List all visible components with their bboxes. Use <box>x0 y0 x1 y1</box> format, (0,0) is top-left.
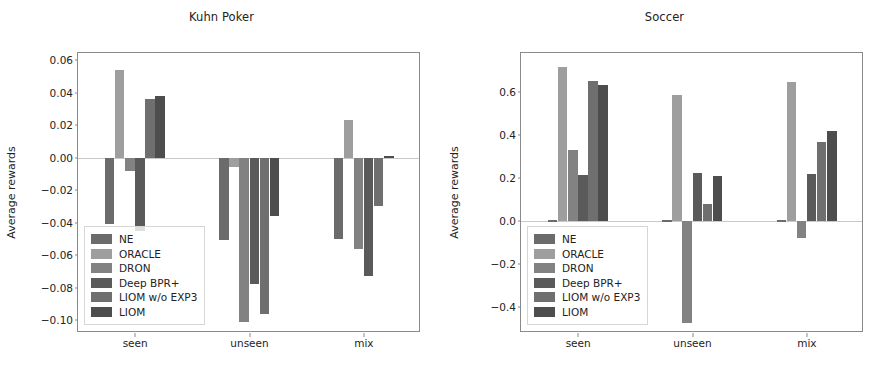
plot-area-soccer: 0.60.40.20.0−0.2−0.4seenunseenmixNEORACL… <box>520 52 863 332</box>
legend-item-label: ORACLE <box>562 249 604 260</box>
bar-kuhn_poker-seen-dron <box>125 158 134 171</box>
y-axis-tick-label: −0.10 <box>41 315 78 326</box>
bar-soccer-seen-oracle <box>558 67 567 221</box>
y-axis-tick-mark <box>75 125 79 126</box>
bar-soccer-mix-liom <box>827 131 836 221</box>
y-axis-tick-mark <box>75 190 79 191</box>
y-axis-tick-mark <box>518 91 522 92</box>
legend-item-label: NE <box>562 234 577 245</box>
legend-item-liom-w-o-exp3[interactable]: LIOM w/o EXP3 <box>91 290 197 305</box>
legend-item-deep-bpr-[interactable]: Deep BPR+ <box>91 276 197 291</box>
y-axis-tick-label: −0.06 <box>41 250 78 261</box>
legend-item-oracle[interactable]: ORACLE <box>534 247 640 262</box>
y-axis-tick-mark <box>75 287 79 288</box>
bar-kuhn_poker-unseen-liom-w-o-exp3 <box>260 158 269 314</box>
bar-soccer-mix-deep-bpr- <box>807 174 816 221</box>
x-axis-tick-label-unseen: unseen <box>230 331 268 349</box>
chart-title-soccer: Soccer <box>443 10 886 24</box>
legend-swatch-icon <box>91 234 112 244</box>
legend-item-label: LIOM w/o EXP3 <box>119 292 197 303</box>
legend-swatch-icon <box>534 278 555 288</box>
bar-kuhn_poker-unseen-oracle <box>229 158 238 168</box>
legend-swatch-icon <box>91 249 112 259</box>
bar-kuhn_poker-unseen-liom <box>270 158 279 216</box>
bar-kuhn_poker-seen-oracle <box>115 70 124 158</box>
y-axis-tick-mark <box>75 60 79 61</box>
legend-item-label: ORACLE <box>119 249 161 260</box>
legend-item-dron[interactable]: DRON <box>534 261 640 276</box>
y-axis-tick-mark <box>518 134 522 135</box>
legend-swatch-icon <box>91 278 112 288</box>
y-axis-label-text: Average rewards <box>448 146 461 239</box>
legend-item-label: LIOM <box>119 307 145 318</box>
bar-kuhn_poker-mix-oracle <box>344 120 353 157</box>
y-axis-tick-label: −0.2 <box>491 259 522 270</box>
x-axis-tick-label-seen: seen <box>566 331 591 349</box>
legend-item-ne[interactable]: NE <box>91 232 197 247</box>
y-axis-label-kuhn-poker: Average rewards <box>2 52 20 332</box>
x-axis-tick-label-unseen: unseen <box>673 331 711 349</box>
y-axis-tick-mark <box>75 222 79 223</box>
bar-soccer-seen-liom-w-o-exp3 <box>588 81 597 221</box>
bar-kuhn_poker-unseen-ne <box>219 158 228 241</box>
bar-kuhn_poker-seen-ne <box>105 158 114 225</box>
bar-soccer-seen-liom <box>598 85 607 221</box>
bar-kuhn_poker-mix-liom <box>384 156 393 158</box>
legend-item-label: Deep BPR+ <box>119 278 180 289</box>
legend-swatch-icon <box>91 307 112 317</box>
bar-soccer-mix-oracle <box>787 82 796 221</box>
x-axis-tick-label-mix: mix <box>354 331 373 349</box>
y-axis-tick-label: −0.02 <box>41 185 78 196</box>
legend-item-liom-w-o-exp3[interactable]: LIOM w/o EXP3 <box>534 290 640 305</box>
y-axis-tick-mark <box>75 255 79 256</box>
legend-item-oracle[interactable]: ORACLE <box>91 247 197 262</box>
bar-soccer-unseen-ne <box>662 220 671 222</box>
legend-item-ne[interactable]: NE <box>534 232 640 247</box>
bar-soccer-mix-dron <box>797 221 806 238</box>
legend-swatch-icon <box>534 292 555 302</box>
legend-swatch-icon <box>91 263 112 273</box>
y-axis-tick-mark <box>518 307 522 308</box>
bar-soccer-unseen-liom-w-o-exp3 <box>703 204 712 221</box>
figure-two-panel-bar-charts: Kuhn Poker Average rewards 0.060.040.020… <box>0 0 886 378</box>
chart-title-kuhn-poker: Kuhn Poker <box>0 10 443 24</box>
bar-soccer-unseen-liom <box>713 176 722 221</box>
plot-area-kuhn-poker: 0.060.040.020.00−0.02−0.04−0.06−0.08−0.1… <box>77 52 420 332</box>
y-axis-tick-label: −0.4 <box>491 302 522 313</box>
bar-soccer-unseen-oracle <box>672 95 681 221</box>
legend-item-liom[interactable]: LIOM <box>534 305 640 320</box>
y-axis-tick-label: −0.04 <box>41 217 78 228</box>
bar-soccer-unseen-deep-bpr- <box>693 173 702 221</box>
y-axis-tick-mark <box>518 264 522 265</box>
bar-kuhn_poker-seen-liom <box>155 96 164 158</box>
bar-soccer-mix-liom-w-o-exp3 <box>817 142 826 221</box>
legend-item-label: DRON <box>119 263 151 274</box>
legend-item-deep-bpr-[interactable]: Deep BPR+ <box>534 276 640 291</box>
legend-soccer: NEORACLEDRONDeep BPR+LIOM w/o EXP3LIOM <box>527 226 648 325</box>
bar-kuhn_poker-mix-liom-w-o-exp3 <box>374 158 383 207</box>
y-axis-label-text: Average rewards <box>5 146 18 239</box>
bar-kuhn_poker-unseen-deep-bpr- <box>250 158 259 285</box>
legend-item-dron[interactable]: DRON <box>91 261 197 276</box>
bar-soccer-seen-ne <box>548 220 557 222</box>
x-axis-tick-label-seen: seen <box>123 331 148 349</box>
legend-swatch-icon <box>534 307 555 317</box>
bar-soccer-mix-ne <box>777 220 786 222</box>
x-axis-tick-label-mix: mix <box>797 331 816 349</box>
legend-swatch-icon <box>91 292 112 302</box>
panel-kuhn-poker: Kuhn Poker Average rewards 0.060.040.020… <box>0 0 443 378</box>
y-axis-tick-mark <box>518 177 522 178</box>
legend-item-label: LIOM w/o EXP3 <box>562 292 640 303</box>
bar-kuhn_poker-mix-ne <box>334 158 343 239</box>
legend-kuhn_poker: NEORACLEDRONDeep BPR+LIOM w/o EXP3LIOM <box>84 226 205 325</box>
bar-soccer-seen-dron <box>568 150 577 221</box>
legend-swatch-icon <box>534 263 555 273</box>
y-axis-tick-mark <box>75 320 79 321</box>
legend-item-liom[interactable]: LIOM <box>91 305 197 320</box>
bar-kuhn_poker-seen-deep-bpr- <box>135 158 144 231</box>
legend-swatch-icon <box>534 249 555 259</box>
y-axis-tick-mark <box>75 92 79 93</box>
bar-kuhn_poker-seen-liom-w-o-exp3 <box>145 99 154 157</box>
y-axis-label-soccer: Average rewards <box>445 52 463 332</box>
bar-kuhn_poker-unseen-dron <box>239 158 248 322</box>
